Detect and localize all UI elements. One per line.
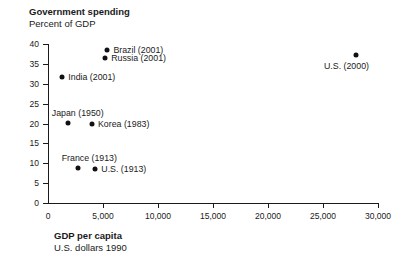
x-tick-mark [378, 203, 379, 208]
y-tick-label: 30 [17, 80, 39, 89]
x-tick-label: 25,000 [310, 212, 336, 221]
data-point [60, 75, 65, 80]
data-point [103, 55, 108, 60]
x-tick-mark [268, 203, 269, 208]
y-tick-mark [43, 104, 48, 105]
x-tick-label: 30,000 [365, 212, 391, 221]
x-tick-mark [213, 203, 214, 208]
chart-figure: Government spending Percent of GDP 05101… [0, 0, 407, 272]
x-axis-title: GDP per capita [54, 230, 127, 242]
x-tick-mark [323, 203, 324, 208]
data-point-label: France (1913) [62, 153, 117, 163]
chart-title-block: Government spending Percent of GDP [29, 6, 130, 30]
x-tick-label: 20,000 [255, 212, 281, 221]
data-point [93, 166, 98, 171]
x-tick-mark [103, 203, 104, 208]
x-tick-label: 10,000 [145, 212, 171, 221]
y-tick-label: 5 [17, 179, 39, 188]
y-tick-label: 25 [17, 100, 39, 109]
data-point-label: U.S. (1913) [101, 164, 146, 174]
data-point [75, 165, 80, 170]
y-tick-label: 15 [17, 139, 39, 148]
x-axis-title-block: GDP per capita U.S. dollars 1990 [54, 230, 127, 254]
data-point-label: Japan (1950) [52, 108, 104, 118]
chart-title: Government spending [29, 6, 130, 18]
data-point [90, 121, 95, 126]
y-tick-label: 40 [17, 40, 39, 49]
y-tick-mark [43, 84, 48, 85]
data-point-label: India (2001) [68, 72, 115, 82]
data-point [65, 120, 70, 125]
x-tick-label: 5,000 [92, 212, 113, 221]
data-point-label: Russia (2001) [111, 53, 166, 63]
x-tick-mark [158, 203, 159, 208]
y-axis-line [48, 44, 49, 204]
data-point-label: U.S. (2000) [324, 61, 369, 71]
y-tick-mark [43, 203, 48, 204]
y-tick-mark [43, 44, 48, 45]
y-tick-mark [43, 143, 48, 144]
chart-subtitle: Percent of GDP [29, 18, 130, 30]
y-tick-mark [43, 64, 48, 65]
y-tick-label: 20 [17, 120, 39, 129]
data-point [105, 47, 110, 52]
y-tick-label: 0 [17, 199, 39, 208]
x-tick-label: 15,000 [200, 212, 226, 221]
y-tick-label: 10 [17, 159, 39, 168]
y-tick-mark [43, 163, 48, 164]
data-point-label: Korea (1983) [98, 119, 149, 129]
y-tick-mark [43, 183, 48, 184]
y-tick-mark [43, 124, 48, 125]
y-tick-label: 35 [17, 60, 39, 69]
data-point [354, 53, 359, 58]
x-axis-subtitle: U.S. dollars 1990 [54, 242, 127, 254]
x-tick-label: 0 [46, 212, 51, 221]
